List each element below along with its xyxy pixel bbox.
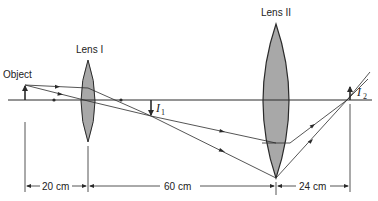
image-2-label: I [356,85,362,99]
dim-arrow-icon [277,184,282,188]
lens-2 [263,24,289,178]
dim-arrow-icon [270,184,275,188]
dim-arrow-icon [89,184,94,188]
object-label: Object [3,69,32,80]
dim-label-20: 20 cm [42,181,69,192]
dim-arrow-icon [344,184,349,188]
lens-2-label: Lens II [261,7,291,18]
diagram-canvas: Object Lens I Lens II I 1 I 2 20 cm 60 c… [0,0,378,201]
ray-2-after-lens-2 [276,72,370,178]
image-2-subscript: 2 [363,92,367,101]
focal-point-1-right [119,98,122,101]
dim-arrow-icon [82,184,87,188]
image-1-subscript: 1 [161,108,165,117]
dim-label-24: 24 cm [299,181,326,192]
dim-label-60: 60 cm [164,181,191,192]
ray-arrow-icon [219,148,225,152]
dim-arrow-icon [26,184,31,188]
optics-diagram: Object Lens I Lens II I 1 I 2 20 cm 60 c… [0,0,378,201]
lens-1-label: Lens I [76,44,103,55]
ray-arrow-icon [57,92,63,96]
ray-arrow-icon [219,129,225,133]
ray-arrow-icon [55,85,60,89]
ray-2 [25,85,276,178]
focal-point-1-left [52,98,55,101]
